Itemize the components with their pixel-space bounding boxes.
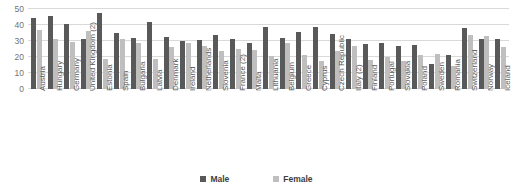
x-tick-label: Iceland xyxy=(504,65,512,91)
x-tick-label-text: Romania xyxy=(454,59,462,91)
x-tick-label-text: Netherlands xyxy=(205,48,213,91)
x-tick-label-text: Spain xyxy=(122,71,130,91)
x-tick-label-text: Iceland xyxy=(504,65,512,91)
legend-swatch-female-icon xyxy=(273,176,279,182)
bar-male xyxy=(412,45,417,89)
x-tick-label-text: Bulgaria xyxy=(139,62,147,91)
y-tick-label-40: 40 xyxy=(0,21,24,30)
x-tick-label: Spain xyxy=(122,71,130,91)
x-tick-label: Finland xyxy=(371,65,379,91)
x-tick-label: Greece xyxy=(305,65,313,91)
bar-chart: 01020304050 AustriaHungaryGermanyUnited … xyxy=(0,0,513,192)
x-tick-label-text: France (2) xyxy=(239,54,247,91)
chart-legend: Male Female xyxy=(0,172,513,186)
x-tick-label: Malta xyxy=(255,71,263,91)
bar-male xyxy=(363,44,368,89)
x-tick-label-text: Belgium xyxy=(288,62,296,91)
x-tick-label-text: Malta xyxy=(255,71,263,91)
bar-male xyxy=(296,32,301,89)
bar-male xyxy=(197,40,202,89)
x-tick-label: Switzerland xyxy=(471,50,479,91)
legend-swatch-male-icon xyxy=(200,176,206,182)
x-tick-label: Bulgaria xyxy=(139,62,147,91)
bar-male xyxy=(131,38,136,89)
bar-male xyxy=(64,24,69,89)
bar-male xyxy=(462,28,467,89)
x-tick-label: Czech Republic xyxy=(338,35,346,91)
bar-male xyxy=(479,39,484,89)
x-tick-label: Austria xyxy=(39,66,47,91)
x-tick-label: Portugal xyxy=(388,61,396,91)
y-tick-label-20: 20 xyxy=(0,53,24,62)
bar-male xyxy=(81,39,86,89)
x-tick-label: Lithuania xyxy=(272,59,280,91)
bar-male xyxy=(147,22,152,89)
y-tick-label-50: 50 xyxy=(0,5,24,14)
x-tick-label-text: Lithuania xyxy=(272,59,280,91)
x-tick-label-text: Slovenia xyxy=(222,60,230,91)
x-tick-label: Slovenia xyxy=(222,60,230,91)
x-tick-label-text: Italy (2) xyxy=(355,64,363,91)
x-tick-label-text: Ireland xyxy=(189,67,197,91)
y-tick-label-10: 10 xyxy=(0,69,24,78)
legend-item-female: Female xyxy=(273,175,312,184)
x-tick-label: Italy (2) xyxy=(355,64,363,91)
x-tick-label-text: Austria xyxy=(39,66,47,91)
x-tick-label-text: Estonia xyxy=(106,64,114,91)
x-tick-label-text: United Kingdom (2) xyxy=(89,22,97,91)
x-tick-label-text: Sweden xyxy=(438,62,446,91)
bar-male xyxy=(164,37,169,89)
x-tick-label-text: Hungary xyxy=(56,61,64,91)
x-tick-label-text: Denmark xyxy=(172,59,180,91)
bar-male xyxy=(495,39,500,89)
bar-male xyxy=(31,18,36,89)
x-tick-label: Cyprus xyxy=(321,66,329,91)
x-tick-label-text: Germany xyxy=(73,58,81,91)
x-tick-label-text: Norway xyxy=(487,64,495,91)
bar-male xyxy=(213,35,218,89)
legend-label-male: Male xyxy=(210,175,229,184)
x-tick-label-text: Cyprus xyxy=(321,66,329,91)
bar-male xyxy=(114,33,119,89)
x-tick-label-text: Switzerland xyxy=(471,50,479,91)
bar-male xyxy=(446,55,451,89)
bar-male xyxy=(48,16,53,89)
x-tick-label: Romania xyxy=(454,59,462,91)
x-tick-label: Denmark xyxy=(172,59,180,91)
legend-item-male: Male xyxy=(200,175,229,184)
x-tick-label: France (2) xyxy=(239,54,247,91)
legend-label-female: Female xyxy=(283,175,312,184)
x-tick-label: United Kingdom (2) xyxy=(89,22,97,91)
x-tick-label-text: Latvia xyxy=(156,70,164,91)
x-tick-label: Poland xyxy=(421,66,429,91)
bar-male xyxy=(180,41,185,89)
bar-male xyxy=(313,27,318,89)
x-axis-category-labels: AustriaHungaryGermanyUnited Kingdom (2)E… xyxy=(28,91,509,169)
x-tick-label: Sweden xyxy=(438,62,446,91)
x-tick-label: Netherlands xyxy=(205,48,213,91)
cropped-title-remnant xyxy=(0,0,513,5)
x-tick-label: Norway xyxy=(487,64,495,91)
x-tick-label: Hungary xyxy=(56,61,64,91)
bar-male xyxy=(263,27,268,89)
x-tick-label-text: Slovakia xyxy=(404,61,412,91)
x-tick-label: Slovakia xyxy=(404,61,412,91)
bar-male xyxy=(280,38,285,89)
y-axis-labels: 01020304050 xyxy=(0,9,24,89)
bar-male xyxy=(429,64,434,89)
bar-male xyxy=(97,13,102,89)
bar-male xyxy=(346,39,351,89)
x-tick-label: Estonia xyxy=(106,64,114,91)
x-tick-label: Latvia xyxy=(156,70,164,91)
x-tick-label: Germany xyxy=(73,58,81,91)
bar-male xyxy=(379,43,384,89)
x-tick-label: Belgium xyxy=(288,62,296,91)
bar-male xyxy=(396,46,401,89)
x-tick-label-text: Czech Republic xyxy=(338,35,346,91)
bar-male xyxy=(330,34,335,89)
bar-male xyxy=(247,43,252,89)
x-tick-label-text: Greece xyxy=(305,65,313,91)
x-tick-label: Ireland xyxy=(189,67,197,91)
x-tick-label-text: Poland xyxy=(421,66,429,91)
y-tick-label-0: 0 xyxy=(0,85,24,94)
